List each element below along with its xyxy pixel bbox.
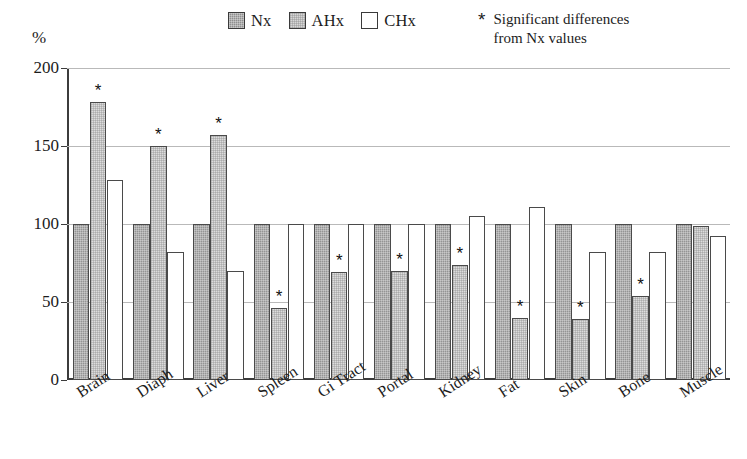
y-tick-label-150: 150	[7, 137, 59, 154]
significance-note-line2: from Nx values	[493, 30, 586, 46]
significance-note: * Significant differences from Nx values	[478, 10, 629, 48]
white-swatch-icon	[361, 12, 378, 29]
y-tick-mark-150	[61, 146, 67, 147]
bar-chx-spleen	[288, 224, 304, 380]
bar-chx-skin	[589, 252, 605, 380]
bar-ahx-kidney	[452, 265, 468, 380]
y-axis-unit-label: %	[32, 28, 46, 48]
bar-group-bone: *	[615, 68, 665, 380]
bar-nx-spleen	[254, 224, 270, 380]
y-tick-label-0: 0	[7, 371, 59, 388]
y-tick-mark-0	[61, 380, 67, 381]
legend-label-ahx: AHx	[312, 12, 345, 29]
bar-nx-gi-tract	[314, 224, 330, 380]
light-hatch-swatch-icon	[289, 12, 306, 29]
significance-asterisk-ahx-portal: *	[389, 251, 409, 268]
legend-item-chx: CHx	[361, 12, 416, 29]
chart-legend: Nx AHx CHx	[228, 12, 416, 29]
bar-chx-gi-tract	[348, 224, 364, 380]
significance-asterisk-ahx-spleen: *	[269, 288, 289, 305]
bar-ahx-bone	[632, 296, 648, 380]
bar-ahx-brain	[90, 102, 106, 380]
significance-asterisk-ahx-kidney: *	[450, 245, 470, 262]
legend-label-chx: CHx	[384, 12, 416, 29]
bar-chx-bone	[649, 252, 665, 380]
y-tick-label-100: 100	[7, 215, 59, 232]
bar-group-skin: *	[555, 68, 605, 380]
dark-hatch-swatch-icon	[228, 12, 245, 29]
bar-nx-bone	[615, 224, 631, 380]
bar-ahx-diaph	[150, 146, 166, 380]
bar-group-gi-tract: *	[314, 68, 364, 380]
plot-area: 050100150200 ********** BrainDiaphLiverS…	[67, 68, 730, 380]
bar-nx-diaph	[133, 224, 149, 380]
bar-chx-portal	[408, 224, 424, 380]
bar-nx-fat	[495, 224, 511, 380]
bar-nx-skin	[555, 224, 571, 380]
bar-chx-diaph	[167, 252, 183, 380]
y-tick-mark-50	[61, 302, 67, 303]
bar-nx-portal	[374, 224, 390, 380]
legend-item-ahx: AHx	[289, 12, 345, 29]
bar-chart: Nx AHx CHx * Significant differences fro…	[0, 0, 747, 459]
y-tick-label-200: 200	[7, 59, 59, 76]
y-tick-label-50: 50	[7, 293, 59, 310]
significance-asterisk-ahx-brain: *	[88, 82, 108, 99]
bar-nx-brain	[73, 224, 89, 380]
bar-group-muscle	[676, 68, 726, 380]
bar-ahx-fat	[512, 318, 528, 380]
bar-nx-kidney	[435, 224, 451, 380]
bar-chx-liver	[227, 271, 243, 380]
legend-item-nx: Nx	[228, 12, 272, 29]
bar-group-liver: *	[193, 68, 243, 380]
significance-asterisk-ahx-bone: *	[630, 276, 650, 293]
y-tick-mark-100	[61, 224, 67, 225]
bar-ahx-gi-tract	[331, 272, 347, 380]
bar-nx-muscle	[676, 224, 692, 380]
bar-ahx-muscle	[693, 226, 709, 380]
bar-group-diaph: *	[133, 68, 183, 380]
legend-label-nx: Nx	[251, 12, 272, 29]
significance-asterisk-ahx-diaph: *	[148, 126, 168, 143]
bar-group-kidney: *	[435, 68, 485, 380]
bar-group-portal: *	[374, 68, 424, 380]
significance-asterisk-ahx-skin: *	[570, 299, 590, 316]
significance-asterisk-ahx-gi-tract: *	[329, 252, 349, 269]
significance-note-text: Significant differences from Nx values	[493, 10, 629, 48]
bar-chx-fat	[529, 207, 545, 380]
bar-chx-muscle	[710, 236, 726, 380]
asterisk-icon: *	[478, 10, 485, 29]
significance-asterisk-ahx-fat: *	[510, 298, 530, 315]
bar-ahx-liver	[210, 135, 226, 380]
bar-nx-liver	[193, 224, 209, 380]
bar-group-spleen: *	[254, 68, 304, 380]
significance-asterisk-ahx-liver: *	[208, 115, 228, 132]
bar-ahx-portal	[391, 271, 407, 380]
y-tick-mark-200	[61, 68, 67, 69]
bar-group-brain: *	[73, 68, 123, 380]
bar-chx-kidney	[469, 216, 485, 380]
bar-chx-brain	[107, 180, 123, 380]
significance-note-line1: Significant differences	[493, 11, 629, 27]
bar-group-fat: *	[495, 68, 545, 380]
